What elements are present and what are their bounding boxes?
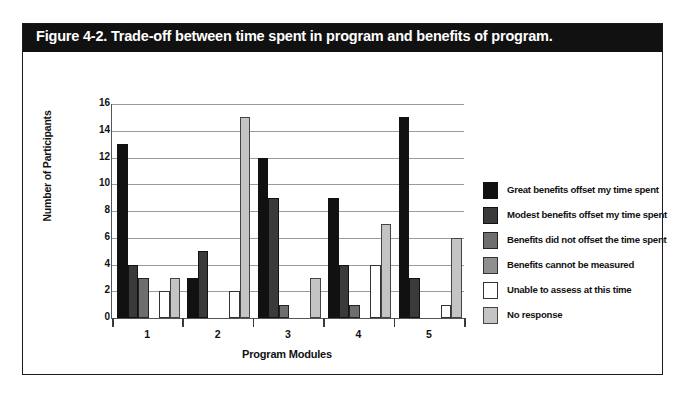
bar <box>328 198 339 318</box>
plot-area: 024681012141612345 <box>111 104 464 319</box>
y-axis-tick-label: 12 <box>70 151 110 162</box>
figure-frame: Figure 4-2. Trade-off between time spent… <box>22 23 663 375</box>
bar <box>370 265 381 319</box>
x-axis-tick <box>464 318 466 327</box>
legend-swatch-icon <box>483 257 498 274</box>
chart-area: Number of Participants 02468101214161234… <box>23 52 662 374</box>
gridline <box>112 265 464 266</box>
legend-swatch-icon <box>483 182 498 199</box>
bar <box>441 305 452 318</box>
y-axis-tick-label: 4 <box>70 258 110 269</box>
legend-label: Great benefits offset my time spent <box>507 184 659 195</box>
y-axis-title: Number of Participants <box>41 86 53 246</box>
y-axis-tick-label: 6 <box>70 231 110 242</box>
legend-label: No response <box>507 309 562 320</box>
gridline <box>112 158 464 159</box>
gridline <box>112 211 464 212</box>
legend-swatch-icon <box>483 207 498 224</box>
bar <box>187 278 198 318</box>
bar <box>399 117 410 318</box>
y-axis-tick-label: 16 <box>70 97 110 108</box>
y-axis-tick-label: 10 <box>70 177 110 188</box>
x-axis-tick-label: 4 <box>343 328 373 340</box>
legend-label: Benefits cannot be measured <box>507 259 634 270</box>
bar <box>381 224 392 318</box>
x-axis-tick-label: 2 <box>203 328 233 340</box>
legend-label: Benefits did not offset the time spent <box>507 234 666 245</box>
bar <box>310 278 321 318</box>
x-axis-tick <box>253 318 255 327</box>
bar <box>339 265 350 319</box>
bar <box>198 251 209 318</box>
legend-swatch-icon <box>483 282 498 299</box>
y-axis-tick-label: 2 <box>70 284 110 295</box>
x-axis-tick-label: 5 <box>414 328 444 340</box>
gridline <box>112 104 464 105</box>
legend-label: Unable to assess at this time <box>507 284 631 295</box>
legend-swatch-icon <box>483 307 498 324</box>
bar <box>229 291 240 318</box>
x-axis-tick <box>112 318 114 327</box>
bar <box>409 278 420 318</box>
x-axis-title: Program Modules <box>111 348 463 360</box>
bar <box>349 305 360 318</box>
x-axis-tick <box>323 318 325 327</box>
legend-swatch-icon <box>483 232 498 249</box>
bar <box>128 265 139 319</box>
bar <box>240 117 251 318</box>
y-axis-tick-label: 14 <box>70 124 110 135</box>
gridline <box>112 184 464 185</box>
x-axis-tick <box>182 318 184 327</box>
bar <box>258 158 269 319</box>
bar <box>451 238 462 318</box>
bar <box>170 278 181 318</box>
bar <box>159 291 170 318</box>
bar <box>138 278 149 318</box>
legend-label: Modest benefits offset my time spent <box>507 209 667 220</box>
y-axis-tick-label: 0 <box>70 311 110 322</box>
y-axis-tick-label: 8 <box>70 204 110 215</box>
bar <box>117 144 128 318</box>
x-axis-tick-label: 3 <box>273 328 303 340</box>
figure-title: Figure 4-2. Trade-off between time spent… <box>36 28 553 44</box>
gridline <box>112 238 464 239</box>
bar <box>268 198 279 318</box>
figure-title-bar: Figure 4-2. Trade-off between time spent… <box>23 24 662 52</box>
x-axis-tick-label: 1 <box>132 328 162 340</box>
bar <box>279 305 290 318</box>
x-axis-tick <box>394 318 396 327</box>
gridline <box>112 131 464 132</box>
